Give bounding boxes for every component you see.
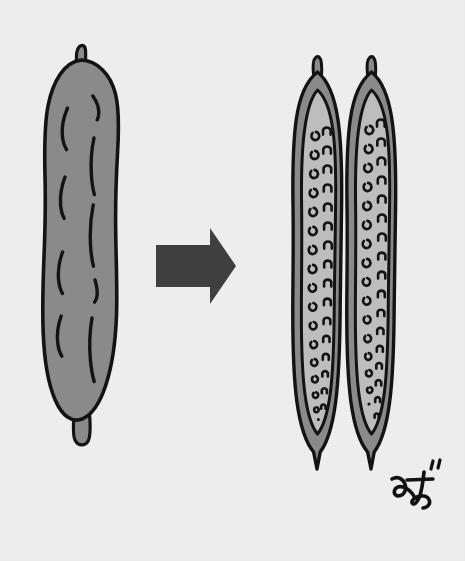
split-pod-group <box>293 57 396 469</box>
whole-pod-body <box>43 60 119 420</box>
split-pod-half-left <box>293 57 342 469</box>
transition-arrow-icon <box>156 228 236 304</box>
pod-split-figure: Pod splitting into two seed-bearing halv… <box>0 0 465 561</box>
split-pod-half-right <box>347 57 396 469</box>
whole-pod-group <box>43 45 119 445</box>
artist-signature <box>392 460 440 508</box>
illustration-canvas: Pod splitting into two seed-bearing halv… <box>0 0 465 561</box>
